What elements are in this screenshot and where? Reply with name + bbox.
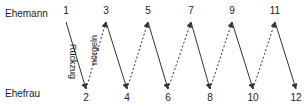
retreat-arrow-9-10 <box>232 22 253 89</box>
retreat-arrow-5-6 <box>148 22 168 89</box>
row-label-husband: Ehemann <box>5 8 48 19</box>
node-label-6: 6 <box>165 92 171 103</box>
edge-label-retreat: Rückzug <box>68 44 78 79</box>
node-label-4: 4 <box>124 92 130 103</box>
svg-text:Rückzug: Rückzug <box>68 44 78 79</box>
nag-arrow-8-9 <box>210 22 232 89</box>
node-label-11: 11 <box>270 5 281 16</box>
retreat-arrow-7-8 <box>191 22 210 89</box>
node-label-10: 10 <box>247 92 259 103</box>
node-label-1: 1 <box>63 5 69 16</box>
node-label-12: 12 <box>290 92 302 103</box>
edge-label-nag: nörgeln <box>89 35 99 65</box>
nag-arrow-6-7 <box>168 22 191 89</box>
edges-group <box>66 22 296 89</box>
zigzag-diagram: Ehemann Ehefrau 123456789101112 Rückzug … <box>0 0 306 108</box>
node-label-3: 3 <box>103 5 109 16</box>
node-label-8: 8 <box>207 92 213 103</box>
nag-arrow-10-11 <box>253 22 275 89</box>
node-label-7: 7 <box>188 5 194 16</box>
retreat-arrow-3-4 <box>106 22 127 89</box>
node-label-5: 5 <box>145 5 151 16</box>
svg-text:nörgeln: nörgeln <box>89 35 99 65</box>
node-label-9: 9 <box>229 5 235 16</box>
nag-arrow-4-5 <box>127 22 148 89</box>
row-label-wife: Ehefrau <box>5 88 40 99</box>
nodes-group: 123456789101112 <box>63 5 302 103</box>
retreat-arrow-11-12 <box>275 22 296 89</box>
node-label-2: 2 <box>83 92 89 103</box>
